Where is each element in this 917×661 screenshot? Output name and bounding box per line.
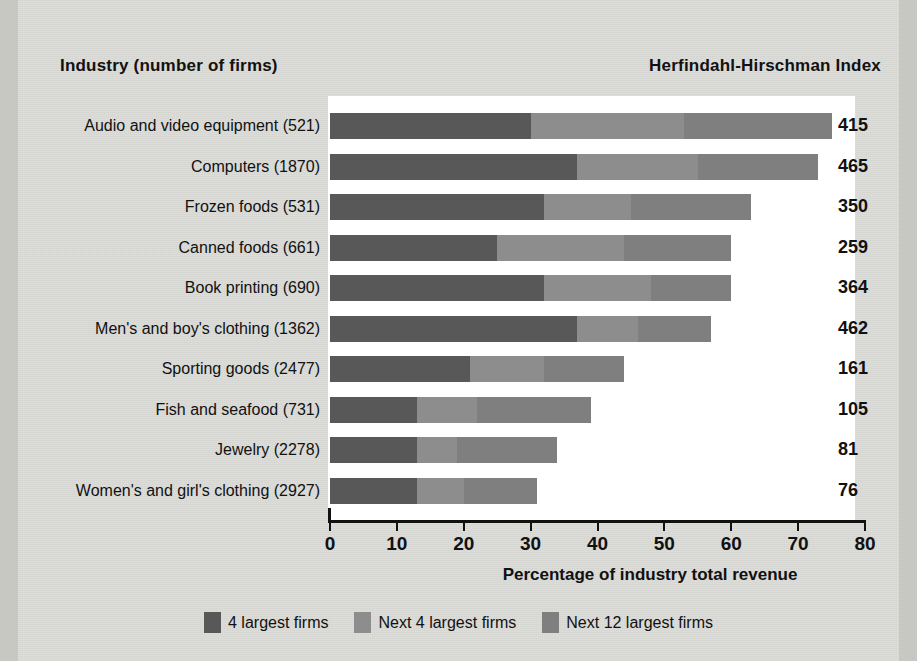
x-axis-tick-label: 0	[325, 533, 336, 555]
x-axis-tick	[864, 520, 866, 531]
legend-item[interactable]: 4 largest firms	[204, 612, 328, 633]
stacked-bar	[330, 194, 751, 220]
hhi-value: 259	[838, 232, 868, 263]
bar-segment	[457, 437, 557, 463]
bar-segment	[330, 194, 544, 220]
x-axis-tick	[663, 520, 665, 531]
bar-segment	[470, 356, 544, 382]
category-label: Book printing (690)	[6, 272, 328, 303]
x-axis-tick	[797, 520, 799, 531]
hhi-value: 350	[838, 191, 868, 222]
industry-column-header: Industry (number of firms)	[60, 56, 360, 76]
stacked-bar	[330, 316, 711, 342]
bar-segment	[330, 478, 417, 504]
bar-segment	[698, 154, 818, 180]
chart-row: Canned foods (661)259	[0, 232, 917, 263]
bar-segment	[577, 154, 697, 180]
stacked-bar	[330, 356, 624, 382]
stacked-bar	[330, 478, 537, 504]
hhi-value: 81	[838, 434, 858, 465]
x-axis-title: Percentage of industry total revenue	[430, 565, 870, 585]
chart-legend: 4 largest firmsNext 4 largest firmsNext …	[0, 612, 917, 633]
x-axis-tick-label: 80	[854, 533, 875, 555]
bar-segment	[330, 437, 417, 463]
hhi-column-header: Herfindahl-Hirschman Index	[649, 56, 881, 76]
bar-segment	[417, 437, 457, 463]
bar-segment	[631, 194, 751, 220]
category-label: Fish and seafood (731)	[6, 394, 328, 425]
hhi-value: 415	[838, 110, 868, 141]
hhi-value: 465	[838, 151, 868, 182]
bar-segment	[544, 194, 631, 220]
bar-segment	[577, 316, 637, 342]
stacked-bar	[330, 113, 832, 139]
bar-segment	[684, 113, 831, 139]
x-axis-tick	[396, 520, 398, 531]
category-label: Men's and boy's clothing (1362)	[6, 313, 328, 344]
legend-label: Next 12 largest firms	[566, 614, 713, 632]
hhi-value: 462	[838, 313, 868, 344]
category-label: Canned foods (661)	[6, 232, 328, 263]
x-axis-tick	[597, 520, 599, 531]
x-axis-tick-label: 50	[654, 533, 675, 555]
bar-segment	[464, 478, 538, 504]
chart-row: Sporting goods (2477)161	[0, 353, 917, 384]
category-label: Women's and girl's clothing (2927)	[6, 475, 328, 506]
stacked-bar	[330, 397, 591, 423]
x-axis-tick-label: 40	[587, 533, 608, 555]
x-axis-tick-label: 70	[788, 533, 809, 555]
chart-row: Fish and seafood (731)105	[0, 394, 917, 425]
stacked-bar	[330, 235, 731, 261]
x-axis-tick	[329, 520, 331, 531]
category-label: Computers (1870)	[6, 151, 328, 182]
hhi-value: 161	[838, 353, 868, 384]
hhi-value: 105	[838, 394, 868, 425]
category-label: Sporting goods (2477)	[6, 353, 328, 384]
bar-segment	[544, 356, 624, 382]
bar-segment	[531, 113, 685, 139]
chart-row: Jewelry (2278)81	[0, 434, 917, 465]
bar-segment	[544, 275, 651, 301]
legend-swatch-icon	[354, 612, 371, 633]
bar-segment	[330, 154, 577, 180]
legend-swatch-icon	[204, 612, 221, 633]
chart-row: Audio and video equipment (521)415	[0, 110, 917, 141]
bar-segment	[330, 356, 470, 382]
bar-segment	[638, 316, 712, 342]
category-label: Jewelry (2278)	[6, 434, 328, 465]
legend-item[interactable]: Next 4 largest firms	[354, 612, 516, 633]
bar-segment	[624, 235, 731, 261]
x-axis-tick-label: 30	[520, 533, 541, 555]
chart-row: Computers (1870)465	[0, 151, 917, 182]
chart-row: Book printing (690)364	[0, 272, 917, 303]
stacked-bar	[330, 437, 557, 463]
x-axis-tick-label: 60	[721, 533, 742, 555]
bar-segment	[330, 397, 417, 423]
x-axis-tick	[730, 520, 732, 531]
x-axis-tick	[463, 520, 465, 531]
x-axis-tick-label: 10	[386, 533, 407, 555]
bar-segment	[417, 397, 477, 423]
category-label: Frozen foods (531)	[6, 191, 328, 222]
x-axis-tick-label: 20	[453, 533, 474, 555]
stacked-bar	[330, 275, 731, 301]
x-axis-tick	[530, 520, 532, 531]
legend-label: Next 4 largest firms	[378, 614, 516, 632]
bar-segment	[497, 235, 624, 261]
bar-segment	[417, 478, 464, 504]
chart-row: Women's and girl's clothing (2927)76	[0, 475, 917, 506]
stacked-bar	[330, 154, 818, 180]
bar-segment	[330, 113, 531, 139]
hhi-value: 364	[838, 272, 868, 303]
hhi-value: 76	[838, 475, 858, 506]
chart-page: Industry (number of firms) Herfindahl-Hi…	[0, 0, 917, 661]
bar-segment	[330, 235, 497, 261]
bar-segment	[477, 397, 591, 423]
legend-label: 4 largest firms	[228, 614, 328, 632]
bar-segment	[330, 275, 544, 301]
chart-row: Men's and boy's clothing (1362)462	[0, 313, 917, 344]
legend-item[interactable]: Next 12 largest firms	[542, 612, 713, 633]
chart-row: Frozen foods (531)350	[0, 191, 917, 222]
legend-swatch-icon	[542, 612, 559, 633]
bar-segment	[651, 275, 731, 301]
